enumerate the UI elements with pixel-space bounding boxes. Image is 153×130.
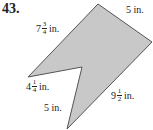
fraction-denominator: 2 [118,96,122,103]
label-whole: 4 [26,82,31,92]
label-left-notch-side: 4 1 4 in. [26,79,49,94]
polygon-figure [0,0,153,130]
label-fraction: 1 2 [117,88,122,103]
label-bottom-right-side: 9 1 2 in. [111,88,134,103]
fraction-numerator: 1 [118,88,122,95]
label-top-right-side: 5 in. [126,5,144,15]
label-whole: 9 [111,91,116,101]
label-fraction: 1 4 [32,79,37,94]
label-unit: in. [49,24,59,34]
label-unit: in. [124,91,134,101]
fraction-denominator: 4 [33,87,37,94]
label-top-left-side: 7 3 4 in. [36,21,59,36]
fraction-numerator: 3 [43,21,47,28]
label-fraction: 3 4 [42,21,47,36]
fraction-numerator: 1 [33,79,37,86]
label-whole: 7 [36,24,41,34]
fraction-denominator: 4 [43,29,47,36]
label-bottom-left-side: 5 in. [44,103,62,113]
label-unit: in. [39,82,49,92]
